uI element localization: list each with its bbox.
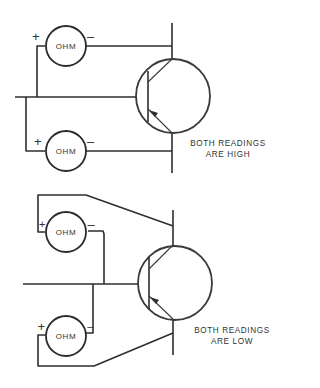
top-meter2-label: OHM bbox=[53, 146, 79, 157]
top-transistor-icon bbox=[136, 59, 210, 133]
bottom-meter1-plus: + bbox=[38, 219, 47, 230]
bottom-caption-line2: ARE LOW bbox=[182, 336, 282, 347]
top-caption-line1: BOTH READINGS bbox=[178, 138, 278, 149]
bottom-caption: BOTH READINGS ARE LOW bbox=[182, 325, 282, 347]
top-meter1-plus: + bbox=[31, 31, 41, 42]
top-caption-line2: ARE HIGH bbox=[178, 149, 278, 160]
top-caption: BOTH READINGS ARE HIGH bbox=[178, 138, 278, 160]
bottom-meter1-minus-wire bbox=[88, 231, 104, 284]
top-meter2-plus: + bbox=[33, 136, 43, 147]
bottom-meter1-minus: – bbox=[87, 219, 96, 230]
top-meter1-minus: – bbox=[86, 31, 96, 42]
bottom-meter2-label: OHM bbox=[53, 331, 79, 342]
bottom-caption-line1: BOTH READINGS bbox=[182, 325, 282, 336]
bottom-meter2-plus: + bbox=[37, 321, 46, 332]
top-meter2-minus: – bbox=[86, 136, 96, 147]
top-meter1-label: OHM bbox=[53, 41, 79, 52]
bottom-meter2-minus: – bbox=[86, 321, 95, 332]
bottom-meter1-label: OHM bbox=[53, 227, 79, 238]
top-meter1-plus-wire bbox=[37, 46, 45, 97]
